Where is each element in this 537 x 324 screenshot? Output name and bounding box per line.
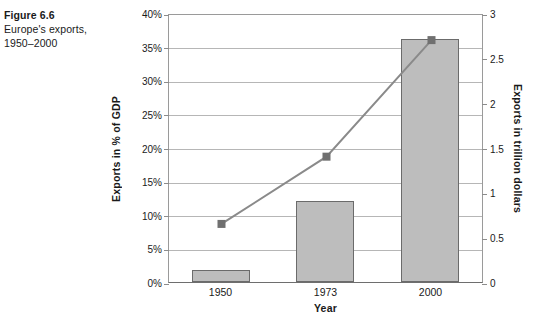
y-axis-left-tick-label: 10% — [142, 210, 162, 221]
bar-slot — [169, 15, 273, 282]
x-axis-tick-label: 2000 — [378, 286, 483, 302]
y-axis-left-title-text: Exports in % of GDP — [110, 96, 122, 202]
plot-area — [168, 14, 483, 283]
y-axis-left-tick — [164, 183, 169, 184]
y-axis-right-tick — [482, 284, 487, 285]
bar-series — [169, 15, 482, 282]
y-axis-left-tick — [164, 82, 169, 83]
y-axis-right-title-text: Exports in trillion dollars — [512, 84, 524, 213]
y-axis-left-tick-label: 30% — [142, 76, 162, 87]
bar-slot — [378, 15, 482, 282]
y-axis-left-tick — [164, 115, 169, 116]
y-axis-right-tick-label: 2.5 — [490, 53, 504, 64]
x-axis-labels: 195019732000 — [168, 286, 483, 302]
y-axis-right-tick — [482, 149, 487, 150]
y-axis-left-tick — [164, 216, 169, 217]
y-axis-left-tick — [164, 15, 169, 16]
y-axis-right-tick — [482, 59, 487, 60]
y-axis-left-labels: 0%5%10%15%20%25%30%35%40% — [128, 14, 162, 283]
y-axis-left-tick-label: 20% — [142, 143, 162, 154]
bar[interactable] — [192, 270, 250, 282]
y-axis-left-tick-label: 35% — [142, 42, 162, 53]
y-axis-left-title: Exports in % of GDP — [108, 14, 124, 283]
figure-root: Figure 6.6 Europe's exports, 1950–2000 E… — [0, 0, 537, 324]
y-axis-left-tick-label: 5% — [148, 244, 162, 255]
bar[interactable] — [401, 39, 459, 282]
y-axis-right-tick-label: 3 — [490, 9, 496, 20]
y-axis-left-tick — [164, 284, 169, 285]
y-axis-right-tick-label: 1.5 — [490, 143, 504, 154]
y-axis-left-tick — [164, 48, 169, 49]
y-axis-right-tick — [482, 194, 487, 195]
y-axis-right-tick-label: 2 — [490, 98, 496, 109]
y-axis-right-tick — [482, 15, 487, 16]
x-axis-tick-label: 1950 — [168, 286, 273, 302]
bar[interactable] — [296, 201, 354, 282]
y-axis-left-tick — [164, 250, 169, 251]
y-axis-right-title: Exports in trillion dollars — [509, 14, 527, 283]
y-axis-left-tick-label: 0% — [148, 278, 162, 289]
chart: Exports in % of GDP 0%5%10%15%20%25%30%3… — [0, 0, 537, 324]
x-axis-title: Year — [168, 302, 483, 314]
bar-slot — [273, 15, 377, 282]
y-axis-right-tick-label: 0.5 — [490, 233, 504, 244]
y-axis-left-tick — [164, 149, 169, 150]
x-axis-tick-label: 1973 — [273, 286, 378, 302]
y-axis-left-tick-label: 25% — [142, 109, 162, 120]
y-axis-right-tick-label: 0 — [490, 278, 496, 289]
y-axis-left-tick-label: 40% — [142, 9, 162, 20]
y-axis-right-tick — [482, 104, 487, 105]
y-axis-right-tick-label: 1 — [490, 188, 496, 199]
y-axis-right-tick — [482, 239, 487, 240]
y-axis-left-tick-label: 15% — [142, 177, 162, 188]
